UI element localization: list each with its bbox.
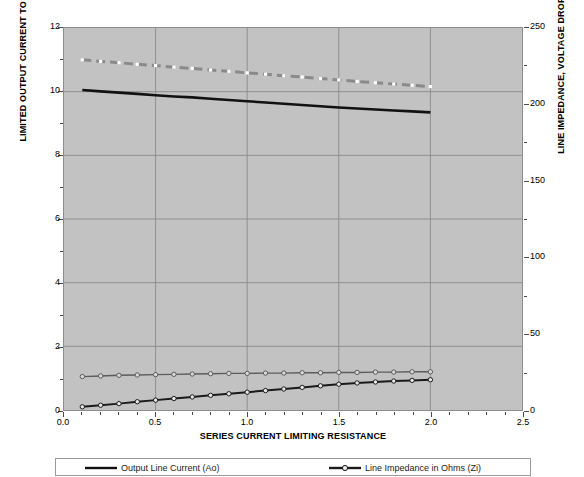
- data-marker: [135, 400, 139, 404]
- x-tick-minor: [468, 412, 469, 415]
- x-tick-minor: [486, 412, 487, 415]
- data-marker: [246, 71, 249, 74]
- y-tick-minor-left: [60, 123, 63, 124]
- y-tick-label-left: 6: [55, 214, 60, 223]
- data-marker: [136, 63, 139, 66]
- chart-figure: 0246810120501001502002500.00.51.01.52.02…: [0, 0, 584, 477]
- series-3: [80, 378, 432, 409]
- y-axis-right-title: LINE IMPEDANCE, VOLTAGE DROP AND LOAD VO…: [556, 0, 566, 219]
- data-marker: [282, 371, 286, 375]
- y-tick-minor-right: [524, 142, 527, 143]
- data-marker: [172, 66, 175, 69]
- data-marker: [392, 82, 395, 85]
- y-tick-minor-right: [524, 296, 527, 297]
- x-tick-label: 1.0: [241, 418, 254, 427]
- data-marker: [117, 401, 121, 405]
- data-marker: [355, 381, 359, 385]
- legend-label: Output Line Current (Ao): [121, 464, 220, 473]
- data-marker: [337, 370, 341, 374]
- gridlines: [64, 28, 522, 410]
- data-marker: [98, 403, 102, 407]
- series-2: [80, 370, 432, 379]
- x-tick-minor: [265, 412, 266, 415]
- x-tick-label: 0.0: [57, 418, 70, 427]
- data-marker: [337, 78, 340, 81]
- data-marker: [428, 370, 432, 374]
- data-marker: [172, 372, 176, 376]
- data-marker: [80, 374, 84, 378]
- data-marker: [190, 395, 194, 399]
- series-line: [82, 60, 430, 87]
- data-marker: [191, 67, 194, 70]
- series-line: [82, 372, 430, 377]
- data-marker: [282, 387, 286, 391]
- x-tick-minor: [81, 412, 82, 415]
- x-tick-minor: [302, 412, 303, 415]
- y-tick-mark-right: [524, 257, 529, 258]
- x-tick-minor: [173, 412, 174, 415]
- y-tick-minor-left: [60, 251, 63, 252]
- x-tick-minor: [192, 412, 193, 415]
- data-marker: [373, 370, 377, 374]
- y-tick-mark-right: [524, 104, 529, 105]
- y-tick-label-left: 4: [55, 278, 60, 287]
- data-marker: [209, 68, 212, 71]
- y-tick-minor-right: [524, 219, 527, 220]
- y-tick-label-left: 10: [50, 86, 60, 95]
- y-tick-label-right: 150: [530, 176, 545, 185]
- data-marker: [80, 405, 84, 409]
- x-tick-minor: [505, 412, 506, 415]
- y-tick-minor-left: [60, 187, 63, 188]
- x-tick-minor: [357, 412, 358, 415]
- x-tick-minor: [137, 412, 138, 415]
- data-marker: [392, 370, 396, 374]
- x-tick-minor: [100, 412, 101, 415]
- x-axis-title: SERIES CURRENT LIMITING RESISTANCE: [63, 431, 523, 441]
- series-1: [82, 90, 430, 112]
- data-marker: [172, 396, 176, 400]
- y-tick-label-right: 50: [530, 329, 540, 338]
- x-tick-minor: [118, 412, 119, 415]
- data-marker: [355, 370, 359, 374]
- series-0: [81, 58, 432, 88]
- data-marker: [208, 372, 212, 376]
- data-marker: [263, 388, 267, 392]
- data-marker: [410, 84, 413, 87]
- data-marker: [153, 372, 157, 376]
- data-marker: [227, 392, 231, 396]
- data-marker: [227, 70, 230, 73]
- x-tick-minor: [376, 412, 377, 415]
- data-marker: [227, 371, 231, 375]
- data-marker: [264, 73, 267, 76]
- plot-area: [63, 27, 523, 411]
- y-tick-minor-right: [524, 373, 527, 374]
- x-tick-label: 1.5: [333, 418, 346, 427]
- y-tick-label-left: 12: [50, 22, 60, 31]
- data-marker: [374, 81, 377, 84]
- data-marker: [117, 373, 121, 377]
- data-marker: [429, 85, 432, 88]
- y-tick-mark-right: [524, 27, 529, 28]
- data-marker: [153, 398, 157, 402]
- x-tick-minor: [229, 412, 230, 415]
- data-marker: [99, 60, 102, 63]
- data-marker: [301, 75, 304, 78]
- y-tick-label-right: 0: [530, 406, 535, 415]
- data-marker: [319, 77, 322, 80]
- y-tick-label-right: 100: [530, 252, 545, 261]
- data-marker: [154, 64, 157, 67]
- data-marker: [410, 370, 414, 374]
- y-tick-label-left: 8: [55, 150, 60, 159]
- x-tick-minor: [413, 412, 414, 415]
- data-marker: [98, 374, 102, 378]
- data-marker: [318, 371, 322, 375]
- legend-entry-output-line-current[interactable]: Output Line Current (Ao): [84, 459, 220, 477]
- y-tick-minor-left: [60, 315, 63, 316]
- legend-entry-line-impedance[interactable]: Line Impedance in Ohms (Zi): [328, 459, 481, 477]
- data-marker: [263, 371, 267, 375]
- data-marker: [428, 378, 432, 382]
- data-marker: [208, 393, 212, 397]
- y-axis-left-title: LIMITED OUTPUT CURRENT TO LOAD IN AMPERE…: [18, 0, 28, 219]
- x-tick-label: 2.0: [425, 418, 438, 427]
- data-marker: [337, 382, 341, 386]
